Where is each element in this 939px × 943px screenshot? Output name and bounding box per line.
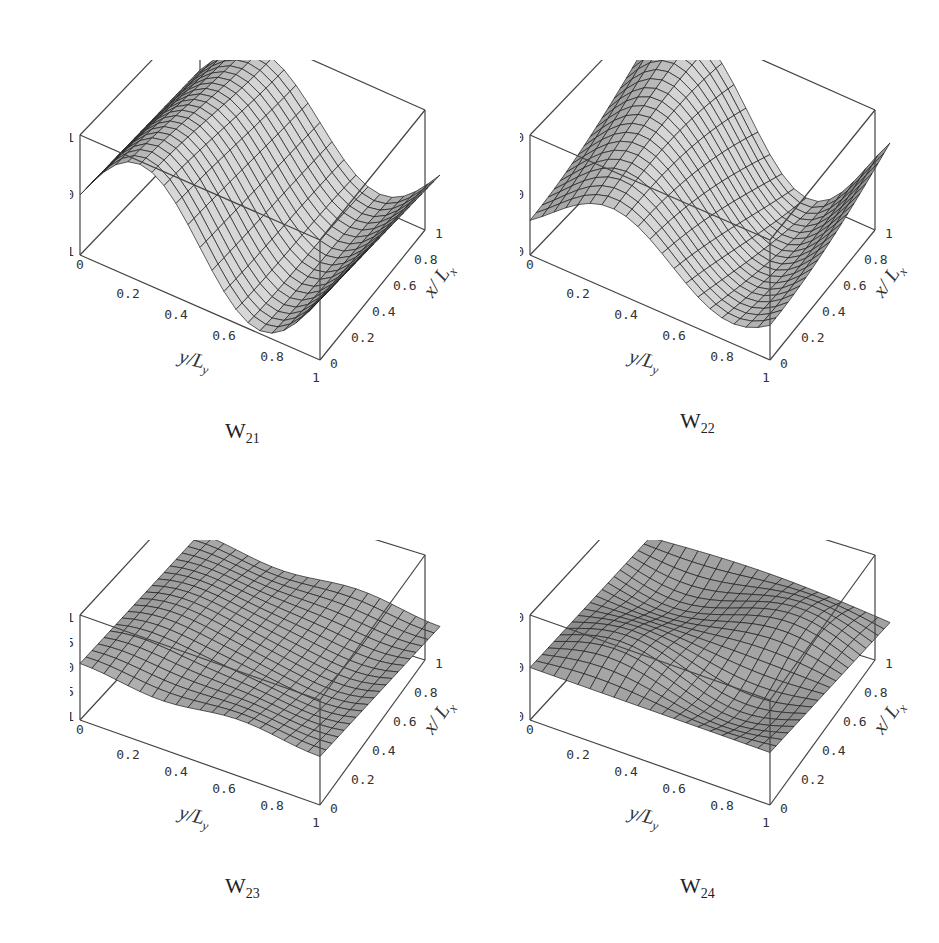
- y-tick-label: 0.6: [212, 781, 235, 796]
- caption-main: W: [225, 873, 246, 898]
- y-tick-label: 1: [762, 370, 770, 385]
- y-axis-label: y/Ly: [624, 344, 663, 377]
- surface-plot-canvas: 1.00.0-1.000.20.40.60.8100.20.40.60.81y/…: [520, 540, 939, 900]
- y-tick-label: 0.6: [662, 781, 685, 796]
- x-tick-label: 0.2: [351, 772, 374, 787]
- y-tick-label: 1: [312, 815, 320, 830]
- x-tick-label: 0.4: [822, 743, 846, 758]
- y-tick-label: 0.4: [614, 307, 638, 322]
- x-tick-label: 1: [885, 656, 893, 671]
- z-tick-label: 0: [70, 660, 74, 675]
- y-tick-label: 1: [762, 815, 770, 830]
- x-tick-label: 0.6: [393, 714, 416, 729]
- caption-w24: W24: [680, 873, 715, 902]
- surface-plot-w22: 1.00.0-1.000.20.40.60.8100.20.40.60.81y/…: [520, 60, 939, 500]
- z-tick-label: -1.0: [520, 709, 524, 724]
- caption-main: W: [680, 408, 701, 433]
- surface-plot-canvas: 1.00.0-1.000.20.40.60.8100.20.40.60.81y/…: [520, 60, 939, 420]
- z-tick-label: 0.0: [520, 660, 524, 675]
- x-tick-label: 0.2: [351, 330, 374, 345]
- x-tick-label: 0: [330, 801, 338, 816]
- caption-w21: W21: [225, 418, 260, 447]
- x-tick-label: 1: [435, 656, 443, 671]
- z-tick-label: 0.0: [520, 187, 524, 202]
- z-tick-label: 1: [70, 610, 74, 625]
- x-tick-label: 0.6: [393, 278, 416, 293]
- x-tick-label: 0.2: [801, 772, 824, 787]
- y-tick-label: 0: [526, 722, 534, 737]
- x-tick-label: 0.4: [372, 304, 396, 319]
- x-tick-label: 1: [885, 226, 893, 241]
- caption-subscript: 23: [246, 886, 260, 901]
- z-tick-label: -1: [70, 709, 74, 724]
- y-tick-label: 0.8: [710, 798, 733, 813]
- y-axis-label: y/Ly: [624, 800, 663, 833]
- z-tick-label: 0.5: [70, 635, 74, 650]
- z-tick-label: -1.0: [520, 244, 524, 259]
- x-tick-label: 0: [780, 801, 788, 816]
- x-tick-label: 0.4: [822, 304, 846, 319]
- y-tick-label: 0: [526, 257, 534, 272]
- x-tick-label: 0: [330, 356, 338, 371]
- caption-main: W: [225, 418, 246, 443]
- surface-plot-canvas: 10.50-0.5-100.20.40.60.8100.20.40.60.81y…: [70, 540, 490, 900]
- z-tick-label: 1.0: [520, 130, 524, 145]
- y-tick-label: 0.8: [260, 798, 283, 813]
- x-tick-label: 0.6: [843, 714, 866, 729]
- y-tick-label: 0.4: [164, 764, 188, 779]
- z-tick-label: 1: [70, 130, 74, 145]
- x-tick-label: 0.8: [414, 685, 437, 700]
- y-tick-label: 0.4: [614, 764, 638, 779]
- y-tick-label: 0: [76, 257, 84, 272]
- surface-plot-w24: 1.00.0-1.000.20.40.60.8100.20.40.60.81y/…: [520, 540, 939, 943]
- z-tick-label: -0.5: [70, 684, 74, 699]
- z-tick-label: 1.0: [520, 610, 524, 625]
- surface-plot-w21: 10-100.20.40.60.8100.20.40.60.81y/Lyx/ L…: [70, 60, 490, 500]
- x-tick-label: 0: [780, 356, 788, 371]
- caption-main: W: [680, 873, 701, 898]
- y-tick-label: 0.2: [566, 286, 589, 301]
- surface-plot-canvas: 10-100.20.40.60.8100.20.40.60.81y/Lyx/ L…: [70, 60, 490, 420]
- caption-subscript: 21: [246, 431, 260, 446]
- x-tick-label: 0.6: [843, 278, 866, 293]
- caption-w23: W23: [225, 873, 260, 902]
- y-tick-label: 0.2: [116, 747, 139, 762]
- x-tick-label: 1: [435, 226, 443, 241]
- x-tick-label: 0.4: [372, 743, 396, 758]
- y-tick-label: 0.4: [164, 307, 188, 322]
- y-tick-label: 0.6: [662, 328, 685, 343]
- z-tick-label: 0: [70, 187, 74, 202]
- caption-w22: W22: [680, 408, 715, 437]
- x-axis-label: x/ Lx: [867, 695, 910, 741]
- x-axis-label: x/ Lx: [417, 695, 460, 741]
- x-tick-label: 0.2: [801, 330, 824, 345]
- x-tick-label: 0.8: [864, 685, 887, 700]
- y-tick-label: 0.6: [212, 328, 235, 343]
- caption-subscript: 22: [701, 421, 715, 436]
- surface-plot-w23: 10.50-0.5-100.20.40.60.8100.20.40.60.81y…: [70, 540, 490, 943]
- y-tick-label: 0: [76, 722, 84, 737]
- caption-subscript: 24: [701, 886, 715, 901]
- z-tick-label: -1: [70, 244, 74, 259]
- y-axis-label: y/Ly: [174, 344, 213, 377]
- y-tick-label: 0.8: [710, 349, 733, 364]
- y-tick-label: 0.2: [116, 286, 139, 301]
- y-tick-label: 0.8: [260, 349, 283, 364]
- y-tick-label: 0.2: [566, 747, 589, 762]
- y-axis-label: y/Ly: [174, 800, 213, 833]
- y-tick-label: 1: [312, 370, 320, 385]
